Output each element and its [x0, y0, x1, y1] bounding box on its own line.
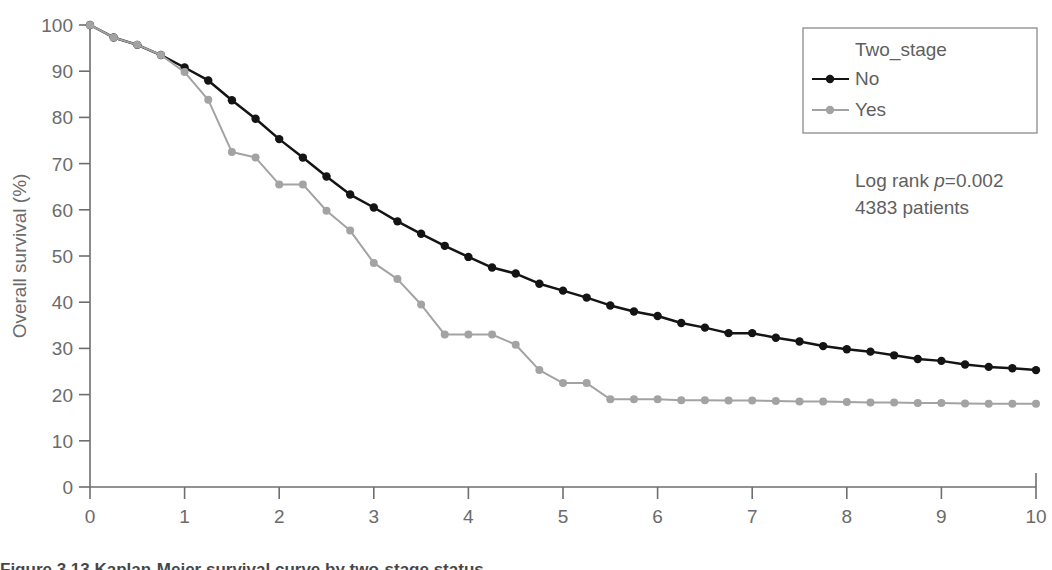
legend-title: Two_stage	[855, 39, 947, 61]
data-point	[866, 347, 874, 355]
data-point	[937, 357, 945, 365]
data-point	[724, 329, 732, 337]
data-point	[488, 331, 496, 339]
y-tick-label: 70	[52, 154, 73, 175]
data-point	[701, 323, 709, 331]
data-point	[512, 269, 520, 277]
data-point	[630, 307, 638, 315]
data-point	[819, 398, 827, 406]
data-point	[133, 41, 141, 49]
data-point	[819, 342, 827, 350]
data-point	[653, 312, 661, 320]
data-point	[961, 360, 969, 368]
data-point	[630, 395, 638, 403]
data-point	[583, 379, 591, 387]
y-tick-label: 40	[52, 292, 73, 313]
legend-swatch-marker	[826, 75, 834, 83]
x-tick-label: 6	[652, 506, 663, 527]
data-point	[1008, 364, 1016, 372]
data-point	[535, 366, 543, 374]
data-point	[512, 341, 520, 349]
kaplan-meier-figure: 0102030405060708090100012345678910YearOv…	[0, 0, 1052, 570]
data-point	[606, 301, 614, 309]
data-point	[701, 396, 709, 404]
legend-swatch-marker	[826, 106, 834, 114]
data-point	[204, 76, 212, 84]
data-point	[110, 33, 118, 41]
data-point	[86, 21, 94, 29]
data-point	[559, 379, 567, 387]
data-point	[725, 397, 733, 405]
data-point	[204, 96, 212, 104]
data-point	[441, 331, 449, 339]
legend-item-label: No	[855, 68, 879, 89]
data-point	[748, 329, 756, 337]
data-point	[346, 190, 354, 198]
y-axis-title: Overall survival (%)	[9, 174, 30, 339]
data-point	[441, 242, 449, 250]
x-tick-label: 3	[369, 506, 380, 527]
data-point	[843, 398, 851, 406]
chart-annotations: Log rank p=0.0024383 patients	[855, 170, 1003, 218]
x-tick-label: 2	[274, 506, 285, 527]
data-point	[866, 398, 874, 406]
x-tick-label: 0	[85, 506, 96, 527]
data-point	[417, 230, 425, 238]
legend-item-label: Yes	[855, 99, 886, 120]
x-tick-label: 8	[842, 506, 853, 527]
data-point	[370, 259, 378, 267]
y-tick-label: 100	[41, 15, 73, 36]
data-point	[582, 293, 590, 301]
data-point	[890, 398, 898, 406]
data-point	[985, 400, 993, 408]
x-tick-label: 9	[936, 506, 947, 527]
data-point	[370, 203, 378, 211]
data-point	[157, 51, 165, 59]
data-point	[748, 397, 756, 405]
data-point	[488, 263, 496, 271]
data-point	[464, 253, 472, 261]
data-point	[796, 398, 804, 406]
y-tick-label: 0	[62, 477, 73, 498]
data-point	[535, 280, 543, 288]
survival-chart: 0102030405060708090100012345678910YearOv…	[0, 0, 1052, 540]
y-tick-label: 50	[52, 246, 73, 267]
data-point	[559, 286, 567, 294]
data-point	[1032, 400, 1040, 408]
x-tick-label: 1	[179, 506, 190, 527]
data-point	[677, 319, 685, 327]
data-point	[299, 180, 307, 188]
data-point	[322, 172, 330, 180]
data-point	[914, 399, 922, 407]
data-point	[275, 180, 283, 188]
data-point	[795, 337, 803, 345]
log-rank-annotation: Log rank p=0.002	[855, 170, 1003, 191]
data-point	[843, 345, 851, 353]
data-point	[677, 396, 685, 404]
data-point	[299, 153, 307, 161]
data-point	[961, 399, 969, 407]
data-point	[228, 96, 236, 104]
data-point	[654, 395, 662, 403]
x-tick-label: 4	[463, 506, 474, 527]
x-tick-label: 10	[1025, 506, 1046, 527]
data-point	[275, 135, 283, 143]
data-point	[772, 334, 780, 342]
data-point	[323, 207, 331, 215]
data-point	[890, 351, 898, 359]
data-point	[181, 68, 189, 76]
data-point	[1008, 400, 1016, 408]
data-point	[985, 363, 993, 371]
data-point	[937, 399, 945, 407]
patient-count-annotation: 4383 patients	[855, 197, 969, 218]
y-tick-label: 80	[52, 107, 73, 128]
data-point	[417, 301, 425, 309]
y-tick-label: 90	[52, 61, 73, 82]
figure-caption-sliver: Figure 3.13 Kaplan-Meier survival curve …	[0, 561, 540, 570]
data-point	[464, 331, 472, 339]
data-point	[393, 217, 401, 225]
data-point	[606, 395, 614, 403]
data-point	[772, 397, 780, 405]
y-tick-label: 20	[52, 385, 73, 406]
data-point	[251, 115, 259, 123]
